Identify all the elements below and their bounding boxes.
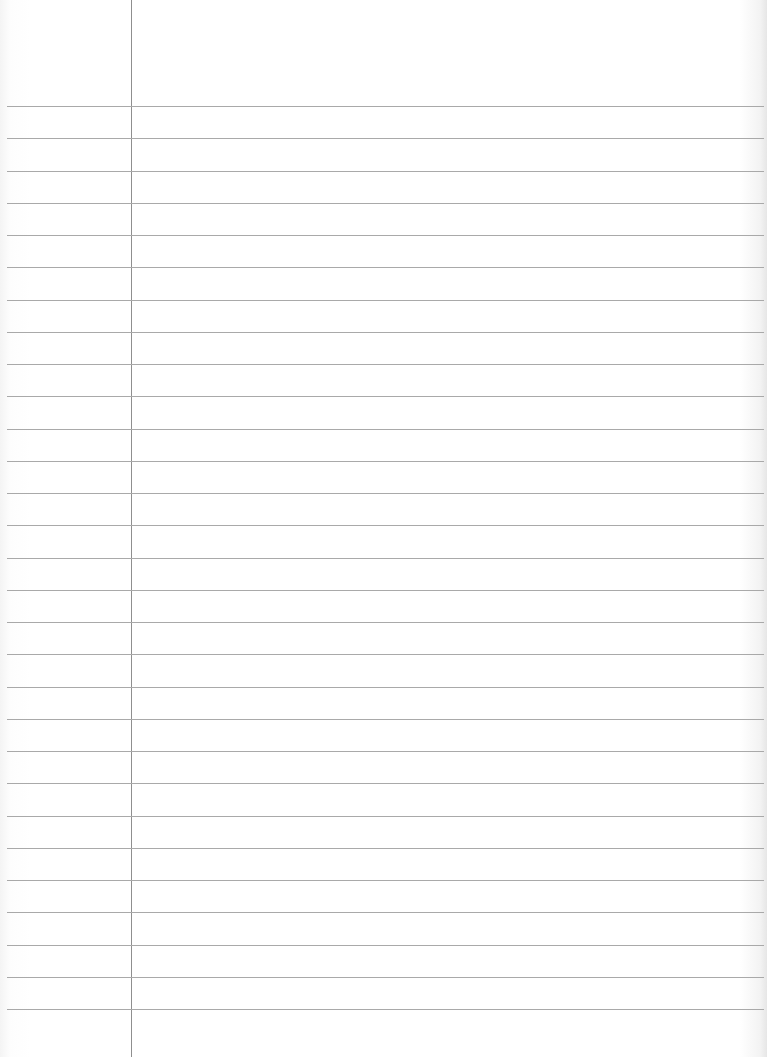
rule-line <box>7 203 764 204</box>
rule-line <box>7 848 764 849</box>
rule-line <box>7 719 764 720</box>
rule-line <box>7 783 764 784</box>
rule-line <box>7 493 764 494</box>
rule-line <box>7 912 764 913</box>
rule-line <box>7 300 764 301</box>
rule-line <box>7 461 764 462</box>
rule-line <box>7 622 764 623</box>
rule-line <box>7 654 764 655</box>
rule-line <box>7 1009 764 1010</box>
rule-line <box>7 235 764 236</box>
rule-line <box>7 332 764 333</box>
rule-line <box>7 687 764 688</box>
rule-line <box>7 558 764 559</box>
margin-line <box>131 0 132 1057</box>
rule-line <box>7 977 764 978</box>
rule-line <box>7 429 764 430</box>
rule-line <box>7 816 764 817</box>
rule-line <box>7 590 764 591</box>
rule-line <box>7 396 764 397</box>
rule-line <box>7 138 764 139</box>
rule-line <box>7 945 764 946</box>
rule-line <box>7 171 764 172</box>
rule-line <box>7 267 764 268</box>
rule-line <box>7 364 764 365</box>
rule-line <box>7 106 764 107</box>
rule-line <box>7 525 764 526</box>
lined-paper-sheet <box>0 0 767 1057</box>
rule-line <box>7 880 764 881</box>
rule-line <box>7 751 764 752</box>
